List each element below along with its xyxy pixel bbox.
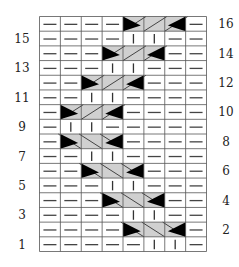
row-label-14: 14 — [218, 47, 234, 61]
row-label-1: 1 — [18, 238, 26, 252]
row-label-9: 9 — [18, 120, 26, 134]
cable-left-cross-icon — [123, 17, 188, 32]
knitting-chart: 16151413121110987654321 — [0, 0, 239, 267]
cable-left-cross-icon — [102, 46, 167, 61]
cable-left-cross-icon — [81, 75, 146, 90]
cable-left-cross-icon — [60, 105, 125, 120]
row-label-13: 13 — [14, 61, 29, 75]
row-label-3: 3 — [18, 208, 26, 222]
row-label-11: 11 — [14, 91, 29, 105]
row-label-7: 7 — [18, 150, 26, 164]
cable-right-cross-icon — [100, 193, 165, 208]
row-label-10: 10 — [218, 105, 233, 119]
row-label-2: 2 — [222, 223, 230, 237]
row-label-6: 6 — [222, 164, 230, 178]
cable-right-cross-icon — [58, 134, 123, 149]
cable-right-cross-icon — [79, 163, 144, 178]
row-label-16: 16 — [218, 17, 233, 31]
cable-right-cross-icon — [121, 222, 186, 237]
row-label-8: 8 — [222, 135, 230, 149]
row-label-15: 15 — [14, 32, 29, 46]
row-label-4: 4 — [222, 194, 230, 208]
row-label-12: 12 — [218, 76, 233, 90]
row-label-5: 5 — [18, 179, 26, 193]
